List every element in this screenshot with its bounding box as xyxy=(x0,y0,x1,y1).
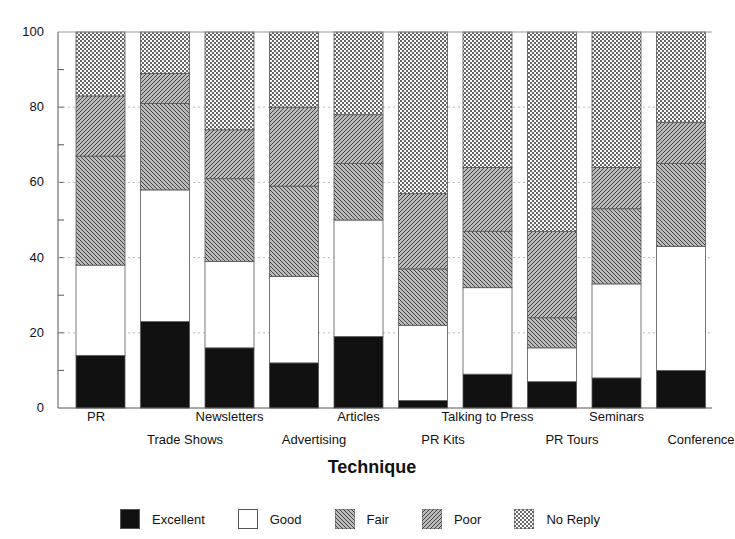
bar-segment-fair xyxy=(334,164,383,220)
bar-segment-no-reply xyxy=(463,32,512,167)
legend-item-no-reply: No Reply xyxy=(514,509,599,529)
bar-segment-excellent xyxy=(528,382,577,408)
bar-segment-poor xyxy=(270,107,319,186)
x-tick-label: Articles xyxy=(337,409,380,424)
x-tick-label: Newsletters xyxy=(196,409,264,424)
bar-segment-good xyxy=(592,284,641,378)
bar-segment-excellent xyxy=(141,322,190,408)
bar-segment-poor xyxy=(463,167,512,231)
x-tick-label: Trade Shows xyxy=(147,432,223,447)
bar-segment-good xyxy=(270,276,319,362)
bar-segment-fair xyxy=(657,164,706,247)
bar-segment-excellent xyxy=(657,370,706,408)
x-tick-label: Advertising xyxy=(282,432,346,447)
bar-segment-fair xyxy=(205,179,254,262)
bar-segment-poor xyxy=(76,96,125,156)
fair-swatch xyxy=(335,509,355,529)
bar-segment-poor xyxy=(657,122,706,163)
x-tick-label: PR Kits xyxy=(421,432,464,447)
excellent-swatch xyxy=(120,509,140,529)
good-swatch xyxy=(238,509,258,529)
bar-segment-fair xyxy=(76,156,125,265)
bar-segment-good xyxy=(657,246,706,370)
x-tick-label: PR Tours xyxy=(545,432,598,447)
bar-segment-good xyxy=(528,348,577,382)
bar-segment-fair xyxy=(141,103,190,189)
bar-segment-excellent xyxy=(205,348,254,408)
x-tick-label: PR xyxy=(87,409,105,424)
bar-segment-no-reply xyxy=(657,32,706,122)
bar-segment-no-reply xyxy=(399,32,448,194)
bar-segment-good xyxy=(399,325,448,400)
bar-segment-no-reply xyxy=(270,32,319,107)
y-tick-label: 20 xyxy=(14,325,44,340)
x-tick-label: Talking to Press xyxy=(442,409,534,424)
bar-segment-good xyxy=(334,220,383,337)
x-axis-title: Technique xyxy=(328,457,417,478)
bar-segment-excellent xyxy=(463,374,512,408)
bar-segment-poor xyxy=(399,194,448,269)
bar-segment-excellent xyxy=(399,400,448,408)
bar-segment-poor xyxy=(141,73,190,103)
legend-item-excellent: Excellent xyxy=(120,509,205,529)
bar-segment-no-reply xyxy=(592,32,641,167)
bar-segment-no-reply xyxy=(334,32,383,115)
bar-segment-poor xyxy=(592,167,641,208)
bar-segment-poor xyxy=(528,231,577,317)
bar-segment-poor xyxy=(205,130,254,179)
bar-segment-excellent xyxy=(270,363,319,408)
y-tick-label: 100 xyxy=(14,24,44,39)
bar-segment-no-reply xyxy=(76,32,125,96)
bar-segment-excellent xyxy=(334,337,383,408)
bar-segment-good xyxy=(463,288,512,374)
y-tick-label: 80 xyxy=(14,99,44,114)
bar-segment-good xyxy=(76,265,125,355)
legend-item-fair: Fair xyxy=(335,509,389,529)
x-tick-label: Conference xyxy=(667,432,734,447)
bar-segment-fair xyxy=(528,318,577,348)
bar-segment-good xyxy=(205,261,254,347)
bar-segment-excellent xyxy=(592,378,641,408)
x-tick-label: Seminars xyxy=(589,409,644,424)
y-tick-label: 40 xyxy=(14,250,44,265)
bar-segment-no-reply xyxy=(528,32,577,231)
no-reply-swatch xyxy=(514,509,534,529)
bar-segment-fair xyxy=(463,231,512,287)
bar-segment-good xyxy=(141,190,190,322)
legend-item-good: Good xyxy=(238,509,302,529)
legend: Excellent Good Fair Poor No Reply xyxy=(120,509,633,529)
bar-segment-poor xyxy=(334,115,383,164)
bar-segment-fair xyxy=(399,269,448,325)
y-tick-label: 0 xyxy=(14,400,44,415)
bar-segment-fair xyxy=(592,209,641,284)
bar-segment-excellent xyxy=(76,355,125,408)
bar-segment-fair xyxy=(270,186,319,276)
bars xyxy=(76,32,706,408)
poor-swatch xyxy=(422,509,442,529)
y-tick-label: 60 xyxy=(14,174,44,189)
bar-segment-no-reply xyxy=(205,32,254,130)
bar-segment-no-reply xyxy=(141,32,190,73)
legend-item-poor: Poor xyxy=(422,509,481,529)
